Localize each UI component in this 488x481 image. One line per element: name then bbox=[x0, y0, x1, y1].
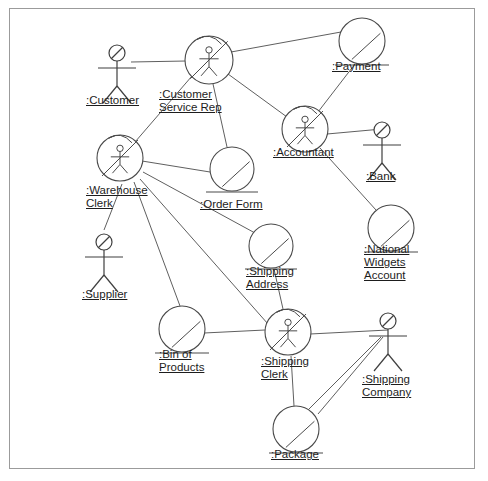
node-label-line: :National bbox=[364, 243, 409, 256]
node-label-bank: :Bank bbox=[366, 170, 395, 183]
node-label-line: :Bank bbox=[366, 170, 395, 183]
node-label-shipping-company: :ShippingCompany bbox=[362, 373, 411, 399]
node-label-line: Products bbox=[159, 361, 204, 374]
node-label-line: :Order Form bbox=[200, 198, 263, 211]
object-circle-icon bbox=[210, 147, 254, 191]
actor-leg-left-icon bbox=[374, 354, 388, 371]
node-label-line: Clerk bbox=[261, 368, 309, 381]
node-label-customer-service-rep: :CustomerService Rep bbox=[159, 88, 222, 114]
node-bin-of-products[interactable] bbox=[155, 306, 209, 353]
node-label-line: :Payment bbox=[332, 60, 381, 73]
node-payment[interactable] bbox=[335, 18, 389, 65]
node-label-supplier: :Supplier bbox=[82, 288, 127, 301]
object-circle-icon bbox=[159, 306, 205, 352]
node-label-line: Service Rep bbox=[159, 101, 222, 114]
node-shipping-company[interactable] bbox=[369, 313, 407, 371]
edge-warehouse-clerk--order-form[interactable] bbox=[142, 161, 210, 172]
node-label-line: :Shipping bbox=[246, 265, 294, 278]
object-circle-icon bbox=[249, 224, 293, 268]
node-label-payment: :Payment bbox=[332, 60, 381, 73]
node-customer-service-rep[interactable] bbox=[185, 36, 233, 84]
node-label-customer: :Customer bbox=[86, 94, 139, 107]
node-label-shipping-clerk: :ShippingClerk bbox=[261, 355, 309, 381]
node-label-line: Address bbox=[246, 278, 294, 291]
object-circle-icon bbox=[273, 406, 319, 452]
edge-layer bbox=[104, 32, 388, 435]
node-label-package: :Package bbox=[271, 448, 319, 461]
inner-actor-head-icon bbox=[206, 47, 212, 53]
diagram-canvas: :Customer:CustomerService Rep:Payment:Ac… bbox=[0, 0, 488, 481]
node-label-shipping-address: :ShippingAddress bbox=[246, 265, 294, 291]
node-label-national-widgets-account: :NationalWidgetsAccount bbox=[364, 243, 409, 282]
node-label-line: :Customer bbox=[159, 88, 222, 101]
edge-customer-service-rep--accountant[interactable] bbox=[228, 74, 287, 117]
node-label-line: Account bbox=[364, 269, 409, 282]
node-order-form[interactable] bbox=[206, 147, 258, 192]
inner-actor-head-icon bbox=[285, 319, 291, 325]
node-label-line: Company bbox=[362, 386, 411, 399]
node-label-accountant: :Accountant bbox=[273, 146, 334, 159]
edge-bin-of-products--shipping-clerk[interactable] bbox=[204, 330, 265, 333]
node-label-line: :Supplier bbox=[82, 288, 127, 301]
node-label-bin-of-products: :Bin ofProducts bbox=[159, 348, 204, 374]
node-label-line: :Bin of bbox=[159, 348, 204, 361]
node-shipping-clerk[interactable] bbox=[265, 309, 311, 355]
node-label-line: :Customer bbox=[86, 94, 139, 107]
node-label-line: :Warehouse bbox=[86, 184, 148, 197]
edge-shipping-clerk--shipping-company[interactable] bbox=[310, 330, 388, 334]
object-circle-icon bbox=[339, 18, 385, 64]
inner-actor-head-icon bbox=[117, 145, 123, 151]
actor-leg-right-icon bbox=[388, 354, 402, 371]
node-label-line: :Accountant bbox=[273, 146, 334, 159]
node-label-line: :Package bbox=[271, 448, 319, 461]
node-label-warehouse-clerk: :WarehouseClerk bbox=[86, 184, 148, 210]
node-shipping-address[interactable] bbox=[245, 224, 297, 269]
inner-actor-head-icon bbox=[302, 116, 308, 122]
node-label-line: Clerk bbox=[86, 197, 148, 210]
node-supplier[interactable] bbox=[85, 234, 123, 292]
node-label-order-form: :Order Form bbox=[200, 198, 263, 211]
edge-customer-service-rep--payment[interactable] bbox=[231, 32, 341, 52]
diagram-graphics bbox=[0, 0, 488, 481]
node-label-line: :Shipping bbox=[362, 373, 411, 386]
node-label-line: :Shipping bbox=[261, 355, 309, 368]
node-label-line: Widgets bbox=[364, 256, 409, 269]
node-warehouse-clerk[interactable] bbox=[97, 135, 143, 181]
node-package[interactable] bbox=[269, 406, 323, 453]
edge-customer--customer-service-rep[interactable] bbox=[131, 61, 186, 62]
